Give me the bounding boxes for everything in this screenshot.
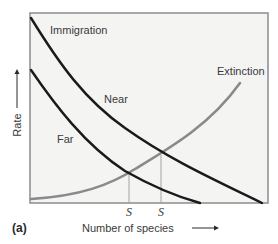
panel-label: (a) bbox=[12, 221, 27, 235]
x-axis-label: Number of species bbox=[82, 222, 174, 234]
x-axis-arrow-icon bbox=[192, 226, 219, 231]
near-label: Near bbox=[104, 93, 128, 105]
y-axis-label: Rate bbox=[11, 113, 23, 136]
y-axis-arrow-icon bbox=[15, 69, 20, 108]
extinction-label: Extinction bbox=[217, 65, 265, 77]
immigration-label: Immigration bbox=[50, 24, 107, 36]
equilibrium-far-label: S bbox=[126, 205, 132, 219]
island-biogeography-chart: Immigration Near Far Extinction S S Numb… bbox=[0, 0, 278, 244]
equilibrium-near-label: S bbox=[158, 205, 164, 219]
far-label: Far bbox=[57, 133, 74, 145]
plot-area bbox=[30, 13, 268, 203]
